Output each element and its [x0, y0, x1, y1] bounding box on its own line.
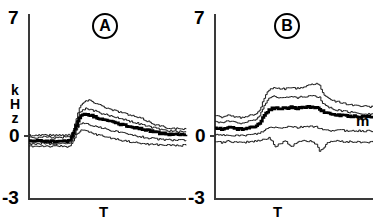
- trace-lower-outer: [215, 137, 373, 151]
- panel-a: 7 0 -3 k H z T A: [0, 0, 186, 221]
- trace-upper-outer: [29, 100, 186, 136]
- panel-a-plot: [0, 0, 186, 221]
- panel-b-plot: [186, 0, 373, 221]
- panel-b: 7 0 -3 T B m: [186, 0, 373, 221]
- figure-container: 7 0 -3 k H z T A 7 0 -3 T B m: [0, 0, 373, 221]
- trace-upper-inner: [215, 96, 373, 124]
